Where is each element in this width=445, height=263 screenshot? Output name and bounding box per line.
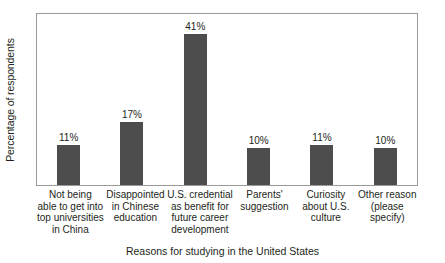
x-axis-category-labels: Not beingable to get intotop universitie… xyxy=(36,189,418,245)
category-label-line: U.S. credential xyxy=(167,189,233,201)
bar[interactable] xyxy=(374,148,397,185)
category-label-line: in China xyxy=(37,224,104,236)
x-axis-category-label: Disappointedin Chineseeducation xyxy=(105,189,166,245)
x-axis-category-label: Not beingable to get intotop universitie… xyxy=(36,189,105,245)
bar[interactable] xyxy=(120,122,143,185)
category-label-line: Not being xyxy=(37,189,104,201)
category-label-line: specify) xyxy=(358,212,417,224)
category-label-line: future career xyxy=(167,212,233,224)
bar-value-label: 41% xyxy=(185,21,205,33)
bar[interactable] xyxy=(310,145,333,185)
bar-value-label: 10% xyxy=(375,135,395,147)
bar-value-label: 17% xyxy=(122,109,142,121)
category-label-line: top universities xyxy=(37,212,104,224)
plot-frame: 11%17%41%10%11%10% xyxy=(36,13,418,186)
category-label-line: Curiosity xyxy=(296,189,355,201)
bar-value-label: 11% xyxy=(59,132,78,144)
bar-slot: 11% xyxy=(290,14,353,185)
category-label-line: about U.S. xyxy=(296,201,355,213)
y-axis-title: Percentage of respondents xyxy=(4,38,16,162)
category-label-line: as benefit for xyxy=(167,201,233,213)
bar[interactable] xyxy=(184,34,207,185)
x-axis-category-label: Other reason(pleasespecify) xyxy=(357,189,418,245)
category-label-line: development xyxy=(167,224,233,236)
bar[interactable] xyxy=(247,148,270,185)
category-label-line: suggestion xyxy=(235,201,294,213)
x-axis-category-label: Parents'suggestion xyxy=(234,189,295,245)
bar-slot: 11% xyxy=(37,14,100,185)
bar-value-label: 10% xyxy=(249,135,269,147)
y-axis-title-container: Percentage of respondents xyxy=(0,13,20,186)
bar-slot: 10% xyxy=(354,14,417,185)
x-axis-title: Reasons for studying in the United State… xyxy=(0,245,445,257)
category-label-line: (please xyxy=(358,201,417,213)
category-label-line: education xyxy=(106,212,165,224)
plot-area: 11%17%41%10%11%10% xyxy=(37,14,417,185)
bar-chart-figure: Percentage of respondents 11%17%41%10%11… xyxy=(0,0,445,263)
bar-slot: 41% xyxy=(164,14,227,185)
category-label-line: culture xyxy=(296,212,355,224)
bar[interactable] xyxy=(57,145,80,185)
bar-value-label: 11% xyxy=(312,132,331,144)
category-label-line: able to get into xyxy=(37,201,104,213)
bar-slot: 17% xyxy=(100,14,163,185)
bar-slot: 10% xyxy=(227,14,290,185)
category-label-line: Disappointed xyxy=(106,189,165,201)
x-axis-category-label: U.S. credentialas benefit forfuture care… xyxy=(166,189,234,245)
category-label-line: Other reason xyxy=(358,189,417,201)
category-label-line: in Chinese xyxy=(106,201,165,213)
category-label-line: Parents' xyxy=(235,189,294,201)
x-axis-category-label: Curiosityabout U.S.culture xyxy=(295,189,356,245)
